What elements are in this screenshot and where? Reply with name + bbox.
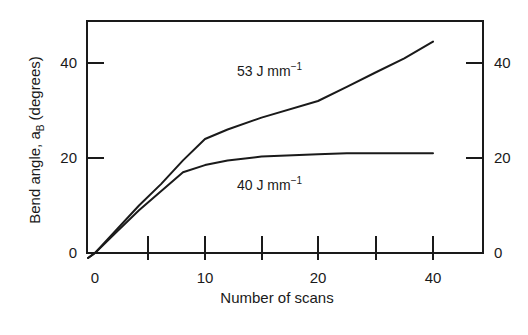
y-axis-title: Bend angle, aB (degrees) [26, 56, 46, 224]
series-label-40: 40 J mm−1 [237, 175, 303, 193]
y2-tick-label: 20 [494, 149, 511, 166]
x-tick-label: 0 [91, 269, 99, 286]
y2-tick-label: 40 [494, 54, 511, 71]
bend-angle-chart: 02040 02040 0102040 53 J mm−1 40 J mm−1 … [0, 0, 528, 335]
x-axis-title: Number of scans [220, 289, 333, 306]
y-axis-ticks: 02040 [60, 54, 104, 261]
y2-axis-ticks: 02040 [466, 54, 511, 261]
plot-frame [87, 21, 483, 253]
y2-tick-label: 0 [494, 244, 502, 261]
x-tick-label: 10 [197, 269, 214, 286]
y-tick-label: 20 [60, 149, 77, 166]
series-label-53: 53 J mm−1 [237, 61, 303, 79]
x-tick-label: 40 [425, 269, 442, 286]
x-axis-ticks: 0102040 [91, 236, 442, 286]
x-tick-label: 20 [310, 269, 327, 286]
y-tick-label: 0 [69, 244, 77, 261]
y-tick-label: 40 [60, 54, 77, 71]
